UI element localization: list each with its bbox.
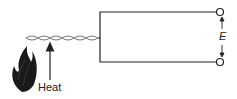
thermocouple-diagram (0, 0, 237, 99)
terminal-bottom (217, 59, 224, 66)
circuit-wires (98, 12, 216, 62)
terminal-top (217, 9, 224, 16)
heat-arrow-icon (47, 43, 54, 80)
heat-label: Heat (38, 81, 61, 93)
flame-icon (12, 46, 37, 92)
emf-label: E (219, 30, 226, 42)
twisted-junction (26, 36, 98, 40)
